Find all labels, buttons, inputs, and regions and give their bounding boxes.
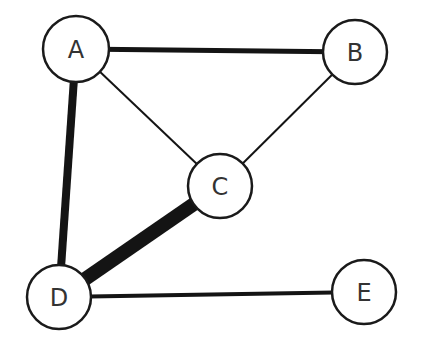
node-label: E bbox=[356, 279, 371, 307]
edge-a-d bbox=[59, 49, 76, 297]
edge-d-e bbox=[59, 292, 364, 297]
node-c: C bbox=[188, 154, 252, 218]
node-e: E bbox=[332, 260, 396, 324]
node-label: D bbox=[50, 284, 68, 312]
nodes-layer: ABCDE bbox=[27, 16, 396, 329]
node-d: D bbox=[27, 265, 91, 329]
graph-svg: ABCDE bbox=[0, 0, 422, 345]
graph-diagram: ABCDE bbox=[0, 0, 422, 345]
edge-a-b bbox=[76, 49, 355, 52]
node-label: B bbox=[347, 39, 363, 67]
node-b: B bbox=[323, 20, 387, 84]
node-a: A bbox=[43, 16, 109, 82]
node-label: A bbox=[68, 36, 85, 64]
node-label: C bbox=[212, 173, 229, 201]
